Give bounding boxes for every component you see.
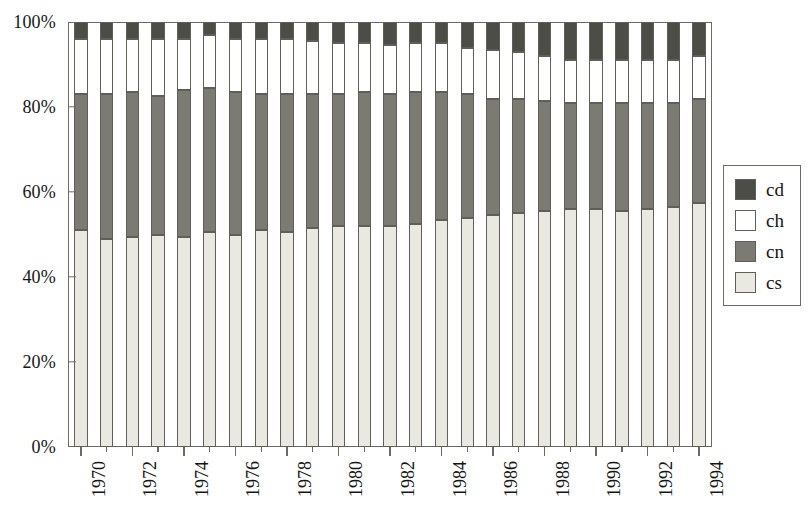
bar-segment-cd bbox=[564, 22, 577, 60]
legend-swatch-icon bbox=[735, 272, 756, 293]
bar-segment-cd bbox=[641, 22, 654, 60]
bar-segment-cs bbox=[255, 230, 268, 447]
bar-segment-cn bbox=[126, 92, 139, 237]
bar-segment-cd bbox=[100, 22, 113, 39]
bar-segment-ch bbox=[564, 60, 577, 103]
bar-1988[interactable] bbox=[538, 22, 551, 447]
bar-segment-cs bbox=[177, 237, 190, 447]
bars-layer bbox=[68, 22, 712, 447]
bar-segment-cn bbox=[306, 94, 319, 228]
x-tick-label: 1982 bbox=[399, 461, 417, 497]
bar-1979[interactable] bbox=[306, 22, 319, 447]
legend-item-ch[interactable]: ch bbox=[735, 208, 784, 232]
bar-segment-cn bbox=[641, 103, 654, 209]
bar-1974[interactable] bbox=[177, 22, 190, 447]
bar-1978[interactable] bbox=[280, 22, 293, 447]
y-tick-label: 20% bbox=[22, 353, 56, 371]
bar-1989[interactable] bbox=[564, 22, 577, 447]
bar-segment-cn bbox=[280, 94, 293, 232]
bar-segment-cs bbox=[589, 209, 602, 447]
bar-segment-cd bbox=[435, 22, 448, 43]
bar-1971[interactable] bbox=[100, 22, 113, 447]
bar-segment-cd bbox=[280, 22, 293, 39]
y-tick-mark bbox=[68, 191, 76, 192]
x-tick-label: 1990 bbox=[605, 461, 623, 497]
bar-1992[interactable] bbox=[641, 22, 654, 447]
x-tick-label: 1984 bbox=[451, 461, 469, 497]
bar-1994[interactable] bbox=[692, 22, 705, 447]
bar-segment-cd bbox=[589, 22, 602, 60]
bar-segment-cd bbox=[332, 22, 345, 43]
bar-1972[interactable] bbox=[126, 22, 139, 447]
bar-segment-ch bbox=[332, 43, 345, 94]
bar-segment-ch bbox=[641, 60, 654, 103]
x-tick-label: 1988 bbox=[554, 461, 572, 497]
bar-segment-cn bbox=[229, 92, 242, 234]
bar-1983[interactable] bbox=[409, 22, 422, 447]
bar-segment-cn bbox=[383, 94, 396, 226]
bar-segment-cs bbox=[151, 235, 164, 448]
x-tick-mark bbox=[106, 447, 107, 452]
bar-segment-cd bbox=[229, 22, 242, 39]
bar-1993[interactable] bbox=[667, 22, 680, 447]
bar-segment-cd bbox=[486, 22, 499, 50]
bar-segment-cd bbox=[615, 22, 628, 60]
bar-segment-ch bbox=[409, 43, 422, 92]
x-tick-mark bbox=[286, 447, 287, 456]
bar-segment-cd bbox=[306, 22, 319, 41]
y-tick-mark bbox=[68, 276, 76, 277]
bar-1984[interactable] bbox=[435, 22, 448, 447]
bar-segment-ch bbox=[255, 39, 268, 94]
bar-1975[interactable] bbox=[203, 22, 216, 447]
legend-swatch-icon bbox=[735, 179, 756, 200]
x-tick-label: 1980 bbox=[347, 461, 365, 497]
bar-segment-cd bbox=[177, 22, 190, 39]
bar-1976[interactable] bbox=[229, 22, 242, 447]
bar-1981[interactable] bbox=[358, 22, 371, 447]
bar-segment-cs bbox=[461, 218, 474, 448]
bar-segment-cs bbox=[203, 232, 216, 447]
bar-segment-cd bbox=[203, 22, 216, 35]
y-tick-mark bbox=[68, 361, 76, 362]
bar-segment-cd bbox=[151, 22, 164, 39]
bar-1991[interactable] bbox=[615, 22, 628, 447]
x-tick-mark bbox=[209, 447, 210, 452]
bar-segment-ch bbox=[589, 60, 602, 103]
legend-item-cn[interactable]: cn bbox=[735, 239, 784, 263]
bar-segment-cn bbox=[461, 94, 474, 217]
bar-1990[interactable] bbox=[589, 22, 602, 447]
bar-segment-cn bbox=[203, 88, 216, 233]
bar-segment-cn bbox=[512, 99, 525, 214]
bar-1977[interactable] bbox=[255, 22, 268, 447]
y-tick-label: 40% bbox=[22, 268, 56, 286]
bar-segment-cd bbox=[538, 22, 551, 56]
legend-item-cd[interactable]: cd bbox=[735, 177, 784, 201]
bar-1973[interactable] bbox=[151, 22, 164, 447]
x-tick-mark bbox=[595, 447, 596, 456]
bar-segment-cn bbox=[358, 92, 371, 226]
x-tick-mark bbox=[132, 447, 133, 456]
bar-segment-cd bbox=[255, 22, 268, 39]
bar-segment-ch bbox=[461, 48, 474, 95]
bar-segment-cs bbox=[435, 220, 448, 447]
bar-segment-cs bbox=[486, 215, 499, 447]
x-tick-mark bbox=[415, 447, 416, 452]
bar-1982[interactable] bbox=[383, 22, 396, 447]
bar-segment-cd bbox=[692, 22, 705, 56]
bar-segment-cn bbox=[409, 92, 422, 224]
bar-segment-cn bbox=[255, 94, 268, 230]
bar-1987[interactable] bbox=[512, 22, 525, 447]
bar-1985[interactable] bbox=[461, 22, 474, 447]
x-tick-mark bbox=[364, 447, 365, 452]
bar-1970[interactable] bbox=[74, 22, 87, 447]
bar-segment-cs bbox=[538, 211, 551, 447]
bar-segment-ch bbox=[358, 43, 371, 92]
legend-item-cs[interactable]: cs bbox=[735, 270, 782, 294]
bar-1986[interactable] bbox=[486, 22, 499, 447]
bar-segment-ch bbox=[229, 39, 242, 92]
x-tick-mark bbox=[312, 447, 313, 452]
x-tick-mark bbox=[544, 447, 545, 456]
bar-segment-cn bbox=[667, 103, 680, 207]
bar-1980[interactable] bbox=[332, 22, 345, 447]
bar-segment-cs bbox=[641, 209, 654, 447]
